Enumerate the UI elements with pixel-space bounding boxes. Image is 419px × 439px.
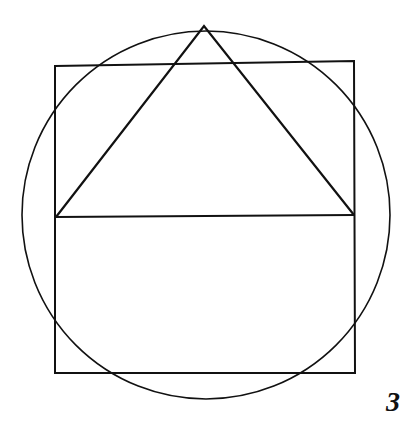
- triangle: [56, 26, 354, 217]
- figure-label: 3: [386, 386, 400, 418]
- divider-line: [56, 215, 354, 217]
- geometry-figure: [0, 0, 419, 439]
